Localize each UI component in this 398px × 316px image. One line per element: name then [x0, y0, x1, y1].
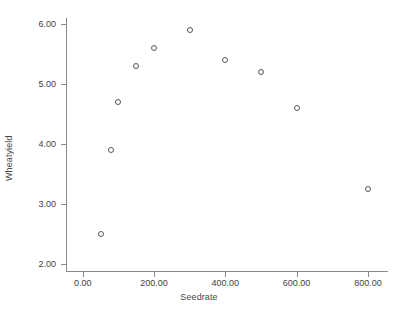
x-tick-mark	[368, 272, 369, 277]
data-point	[151, 45, 157, 51]
x-tick-label: 600.00	[283, 278, 311, 288]
y-tick-label: 6.00	[38, 19, 56, 29]
y-tick-label: 5.00	[38, 79, 56, 89]
data-point	[187, 27, 193, 33]
y-tick-mark	[61, 84, 66, 85]
y-tick-label: 4.00	[38, 139, 56, 149]
y-tick-mark	[61, 24, 66, 25]
data-point	[294, 105, 300, 111]
y-axis-line	[66, 18, 67, 272]
x-tick-mark	[297, 272, 298, 277]
data-point	[115, 99, 121, 105]
y-tick-label: 3.00	[38, 199, 56, 209]
data-point	[222, 57, 228, 63]
x-tick-label: 800.00	[354, 278, 382, 288]
x-tick-label: 200.00	[140, 278, 168, 288]
x-axis-line	[66, 271, 388, 272]
y-tick-mark	[61, 144, 66, 145]
x-axis-title: Seedrate	[0, 292, 398, 302]
plot-area	[0, 0, 398, 316]
data-point	[98, 231, 104, 237]
x-tick-label: 0.00	[74, 278, 92, 288]
data-point	[133, 63, 139, 69]
x-tick-mark	[225, 272, 226, 277]
y-tick-label: 2.00	[38, 259, 56, 269]
scatter-chart: Wheatyield Seedrate 2.003.004.005.006.00…	[0, 0, 398, 316]
y-axis-title: Wheatyield	[0, 0, 18, 316]
data-point	[108, 147, 114, 153]
x-tick-mark	[83, 272, 84, 277]
y-tick-mark	[61, 264, 66, 265]
data-point	[365, 186, 371, 192]
y-tick-mark	[61, 204, 66, 205]
x-tick-mark	[154, 272, 155, 277]
x-tick-label: 400.00	[212, 278, 240, 288]
data-point	[258, 69, 264, 75]
